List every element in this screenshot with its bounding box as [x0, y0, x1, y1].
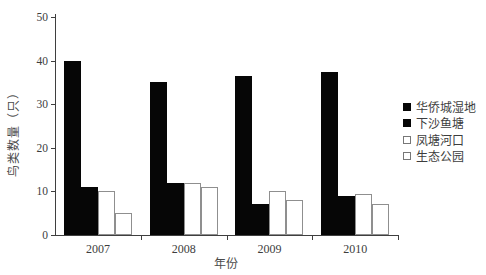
x-tick	[398, 236, 399, 240]
legend-label: 华侨城湿地	[416, 98, 476, 116]
bar	[167, 183, 184, 235]
bar	[338, 196, 355, 235]
bar	[98, 191, 115, 235]
legend-label: 生态公园	[416, 147, 464, 165]
x-tick-label: 2009	[227, 242, 313, 257]
y-tick	[51, 17, 55, 18]
x-tick	[227, 236, 228, 240]
bar	[269, 191, 286, 235]
legend: 华侨城湿地下沙鱼塘凤塘河口生态公园	[403, 100, 476, 163]
x-tick	[141, 236, 142, 240]
x-tick-label: 2007	[55, 242, 141, 257]
legend-item: 下沙鱼塘	[403, 117, 476, 130]
bar	[235, 76, 252, 235]
y-tick	[51, 104, 55, 105]
bar-chart-figure: 鸟类数量（只） 年份 华侨城湿地下沙鱼塘凤塘河口生态公园 01020304050…	[0, 0, 486, 275]
y-tick-label: 50	[18, 11, 48, 23]
x-tick-label: 2008	[141, 242, 227, 257]
bar	[150, 82, 167, 235]
legend-marker-white-square-icon	[403, 136, 411, 144]
legend-item: 华侨城湿地	[403, 100, 476, 113]
y-tick	[51, 61, 55, 62]
bar	[64, 61, 81, 235]
legend-label: 下沙鱼塘	[416, 114, 464, 132]
y-tick-label: 0	[18, 229, 48, 241]
bar	[81, 187, 98, 235]
bar	[286, 200, 303, 235]
bar	[252, 204, 269, 235]
legend-marker-black-square-icon	[403, 103, 411, 111]
legend-item: 凤塘河口	[403, 133, 476, 146]
legend-marker-black-square-icon	[403, 119, 411, 127]
y-tick-label: 30	[18, 98, 48, 110]
legend-item: 生态公园	[403, 150, 476, 163]
legend-marker-white-square-icon	[403, 152, 411, 160]
y-tick-label: 20	[18, 142, 48, 154]
y-axis-line	[55, 14, 56, 236]
y-tick-label: 40	[18, 55, 48, 67]
bar	[372, 204, 389, 235]
bar	[115, 213, 132, 235]
bar	[201, 187, 218, 235]
y-tick	[51, 235, 55, 236]
y-tick	[51, 191, 55, 192]
bar	[355, 194, 372, 235]
y-tick-label: 10	[18, 185, 48, 197]
y-axis-title: 鸟类数量（只）	[4, 76, 22, 186]
legend-label: 凤塘河口	[416, 131, 464, 149]
x-tick	[312, 236, 313, 240]
bar	[184, 183, 201, 235]
y-tick	[51, 148, 55, 149]
x-tick-label: 2010	[312, 242, 398, 257]
bar	[321, 72, 338, 236]
